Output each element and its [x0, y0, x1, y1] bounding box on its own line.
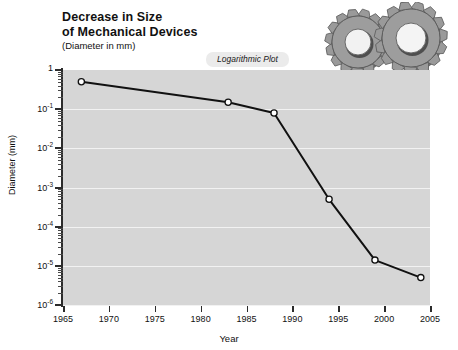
y-axis-minor-tick: [58, 137, 63, 138]
y-axis-minor-tick: [58, 111, 63, 112]
y-axis-tick: [55, 69, 63, 71]
y-axis-minor-tick: [58, 293, 63, 294]
y-axis-minor-tick: [58, 152, 63, 153]
x-axis-tick-label: 1990: [272, 314, 312, 324]
gridline-horizontal: [63, 188, 430, 189]
y-axis-minor-tick: [58, 125, 63, 126]
chart-subtitle: (Diameter in mm): [62, 40, 292, 52]
x-axis-title: Year: [0, 333, 458, 344]
y-axis-minor-tick: [58, 130, 63, 131]
y-axis-tick: [55, 108, 63, 110]
gridline-horizontal: [63, 109, 430, 110]
y-axis-minor-tick: [58, 272, 63, 273]
gears-icon: [318, 2, 453, 70]
x-axis-tick-label: 1965: [43, 314, 83, 324]
y-axis-minor-tick: [58, 189, 63, 190]
plot-area: [63, 70, 430, 305]
y-axis-minor-tick: [58, 278, 63, 279]
y-axis-minor-tick: [58, 233, 63, 234]
y-axis-tick-label: 10-2: [23, 141, 53, 153]
y-axis-minor-tick: [58, 150, 63, 151]
y-axis-minor-tick: [58, 82, 63, 83]
logarithmic-plot-badge: Logarithmic Plot: [206, 52, 289, 67]
x-axis-tick-label: 1995: [318, 314, 358, 324]
x-axis-tick-label: 1970: [89, 314, 129, 324]
y-axis-minor-tick: [58, 160, 63, 161]
x-axis-tick: [292, 306, 294, 312]
y-axis-minor-tick: [58, 115, 63, 116]
y-axis-minor-tick: [58, 72, 63, 73]
y-axis-minor-tick: [58, 199, 63, 200]
y-axis-minor-tick: [58, 118, 63, 119]
y-axis-tick-label: 10-6: [23, 298, 53, 310]
x-axis-tick: [109, 306, 111, 312]
x-axis-tick-label: 1980: [181, 314, 221, 324]
y-axis-minor-tick: [58, 90, 63, 91]
y-axis-minor-tick: [58, 281, 63, 282]
y-axis-tick: [55, 265, 63, 267]
y-axis-minor-tick: [58, 270, 63, 271]
x-axis-tick: [247, 306, 249, 312]
y-axis-minor-tick: [58, 268, 63, 269]
y-axis-minor-tick: [58, 164, 63, 165]
y-axis-minor-tick: [58, 230, 63, 231]
x-axis-tick: [430, 306, 432, 312]
chart-title-block: Decrease in Size of Mechanical Devices (…: [62, 10, 292, 52]
gridline-horizontal: [63, 148, 430, 149]
y-axis-tick: [55, 304, 63, 306]
y-axis-minor-tick: [58, 191, 63, 192]
y-axis-minor-tick: [58, 74, 63, 75]
y-axis-tick-label: 10-1: [23, 102, 53, 114]
y-axis-minor-tick: [58, 97, 63, 98]
y-axis-minor-tick: [58, 154, 63, 155]
y-axis-minor-tick: [58, 242, 63, 243]
x-axis-tick: [201, 306, 203, 312]
gridline-horizontal: [63, 266, 430, 267]
y-axis-tick-label: 10-5: [23, 259, 53, 271]
y-axis-minor-tick: [58, 235, 63, 236]
y-axis-minor-tick: [58, 275, 63, 276]
y-axis-minor-tick: [58, 215, 63, 216]
y-axis-minor-tick: [58, 203, 63, 204]
x-axis-tick-label: 2000: [364, 314, 404, 324]
page-title-line-2: of Mechanical Devices: [62, 25, 292, 40]
page-title-line-1: Decrease in Size: [62, 10, 292, 25]
y-axis-minor-tick: [58, 121, 63, 122]
y-axis-minor-tick: [58, 157, 63, 158]
x-axis-tick: [384, 306, 386, 312]
y-axis-minor-tick: [58, 86, 63, 87]
y-axis-minor-tick: [58, 113, 63, 114]
x-axis-tick-label: 1985: [227, 314, 267, 324]
gridline-horizontal: [63, 227, 430, 228]
x-axis-tick-label: 1975: [135, 314, 175, 324]
y-axis-minor-tick: [58, 76, 63, 77]
y-axis-minor-tick: [58, 228, 63, 229]
y-axis-tick-labels: 110-110-210-310-410-510-6: [15, 0, 53, 350]
y-axis-minor-tick: [58, 238, 63, 239]
y-axis-tick-label: 10-3: [23, 181, 53, 193]
y-axis-minor-tick: [58, 254, 63, 255]
y-axis-tick-label: 1: [23, 63, 53, 73]
y-axis-minor-tick: [58, 169, 63, 170]
y-axis-minor-tick: [58, 79, 63, 80]
x-axis-tick: [63, 306, 65, 312]
chart-figure: Decrease in Size of Mechanical Devices (…: [0, 0, 458, 350]
x-axis-tick: [338, 306, 340, 312]
y-axis-tick-label: 10-4: [23, 220, 53, 232]
y-axis-title: Diameter (mm): [7, 105, 17, 225]
y-axis-minor-tick: [58, 194, 63, 195]
x-axis-tick-label: 2005: [410, 314, 450, 324]
y-axis-minor-tick: [58, 196, 63, 197]
y-axis-minor-tick: [58, 208, 63, 209]
y-axis-minor-tick: [58, 176, 63, 177]
y-axis-minor-tick: [58, 247, 63, 248]
x-axis-tick: [155, 306, 157, 312]
y-axis-minor-tick: [58, 286, 63, 287]
